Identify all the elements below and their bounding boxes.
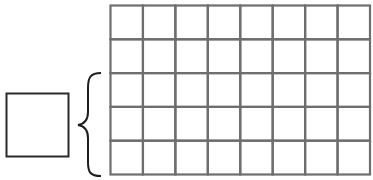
grid-cell [273, 73, 305, 107]
grid-cell [338, 107, 370, 141]
grid-cell [338, 39, 370, 73]
grid-cell [208, 141, 240, 175]
grid-cell [208, 6, 240, 40]
grid-cell [305, 6, 337, 40]
grid-cell [338, 6, 370, 40]
grid-cell [338, 73, 370, 107]
grid-cell [111, 141, 143, 175]
curly-brace [78, 73, 101, 176]
grid-cell [273, 6, 305, 40]
grid-cell [175, 39, 207, 73]
grid-cell [273, 39, 305, 73]
grid-cell [143, 39, 175, 73]
grid-cell [175, 73, 207, 107]
grid [111, 6, 371, 175]
grid-cell [240, 6, 272, 40]
grid-cell [111, 107, 143, 141]
grid-cell [208, 39, 240, 73]
grid-cell [143, 107, 175, 141]
grid-cell [273, 141, 305, 175]
grid-cell [240, 141, 272, 175]
grid-cell [111, 73, 143, 107]
grid-cell [273, 107, 305, 141]
diagram-canvas [0, 0, 373, 180]
grid-cell [305, 107, 337, 141]
grid-cell [305, 73, 337, 107]
grid-cell [208, 73, 240, 107]
grid-cell [240, 107, 272, 141]
grid-cell [175, 107, 207, 141]
grid-cell [305, 39, 337, 73]
grid-cell [143, 141, 175, 175]
grid-cell [240, 73, 272, 107]
grid-cell [175, 141, 207, 175]
grid-cell [143, 73, 175, 107]
unit-square [7, 94, 69, 157]
grid-cell [111, 39, 143, 73]
grid-cell [143, 6, 175, 40]
grid-cell [305, 141, 337, 175]
grid-cell [338, 141, 370, 175]
grid-cell [111, 6, 143, 40]
grid-cell [208, 107, 240, 141]
grid-cell [240, 39, 272, 73]
grid-cell [175, 6, 207, 40]
